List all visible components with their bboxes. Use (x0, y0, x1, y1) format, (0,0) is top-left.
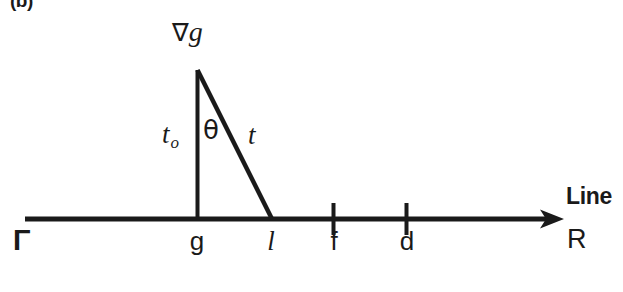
panel-label: (b) (10, 0, 33, 10)
leg-symbol: t (162, 119, 170, 149)
leg-length-label: to (162, 121, 179, 151)
axis-point-label-g: g (190, 228, 204, 254)
axis-name-label: Line (566, 185, 612, 208)
axis-right-end-label: R (567, 226, 587, 253)
angle-theta-label: θ (203, 117, 219, 143)
nabla-icon: ∇ (172, 18, 189, 47)
gradient-label: ∇g (172, 18, 203, 46)
axis-point-label-d: d (400, 228, 414, 254)
hypotenuse-length-label: t (248, 122, 256, 149)
gradient-variable: g (189, 16, 203, 47)
axis-point-label-l: l (267, 228, 275, 255)
axis-point-label-f: f (330, 228, 337, 254)
diagram-canvas (0, 0, 623, 292)
figure-panel-b: (b) ∇g θ to t Γ Line R g l f d (0, 0, 623, 292)
leg-subscript: o (171, 133, 180, 152)
axis-left-end-label: Γ (13, 226, 30, 255)
